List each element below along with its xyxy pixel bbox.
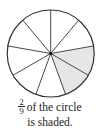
fraction: 2 9 [18, 98, 24, 115]
spoke-line [23, 20, 51, 53]
caption-line-2: is shaded. [0, 116, 100, 128]
caption-text-1: of the circle [27, 101, 82, 113]
figure-caption: 2 9 of the circle is shaded. [0, 98, 100, 128]
spoke-line [51, 20, 79, 53]
center-point [49, 52, 52, 55]
caption-line-1: 2 9 of the circle [0, 98, 100, 115]
spoke-line [8, 46, 51, 54]
fraction-circle-diagram [0, 0, 100, 100]
spoke-line [36, 54, 51, 95]
spoke-line [13, 54, 51, 76]
fraction-denominator: 9 [19, 107, 23, 115]
